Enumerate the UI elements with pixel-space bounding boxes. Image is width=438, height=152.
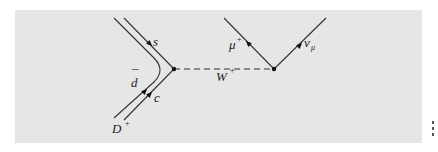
label-nu: ν <box>304 35 310 50</box>
label-W: W <box>216 69 228 84</box>
vertex-quark <box>172 67 176 71</box>
arrow-nu-icon <box>296 41 304 49</box>
label-D: D <box>111 121 122 136</box>
vertex-lepton <box>272 67 276 71</box>
page-edge-marks <box>432 121 436 139</box>
label-mu: μ <box>228 37 236 52</box>
label-mu-sup: + <box>237 35 242 44</box>
label-c: c <box>154 90 160 105</box>
label-s: s <box>153 34 158 49</box>
label-D-sup: + <box>125 119 130 128</box>
label-W-sup: + <box>230 66 235 75</box>
neutrino-line <box>274 18 326 69</box>
label-dbar-bar: ¯ <box>131 67 139 82</box>
label-nu-sub: μ <box>310 43 315 52</box>
feynman-diagram: s d ¯ c D + W + μ + ν μ <box>0 0 438 152</box>
